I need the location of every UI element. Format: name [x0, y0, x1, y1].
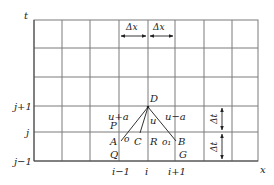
col-label-i-plus-1: i+1 [168, 166, 186, 177]
row-label-j: j [24, 127, 29, 138]
t-axis-label: t [24, 10, 29, 21]
dt-label-1: Δt [209, 114, 219, 125]
point-q-label: Q [110, 149, 118, 160]
point-c-label: C [134, 136, 142, 147]
point-r-label: R [149, 136, 158, 147]
x-axis-label: x [260, 164, 266, 175]
dt-label-2: Δt [209, 142, 219, 153]
col-label-i: i [145, 166, 148, 177]
angle-theta1-label: o₁ [162, 137, 171, 147]
char-label-u: u [150, 115, 156, 126]
point-b-label: B [177, 136, 185, 147]
dx-label-1: Δx [125, 22, 138, 32]
point-d-marker [147, 106, 150, 109]
char-label-u-minus-a: u−a [165, 111, 186, 122]
point-d-label: D [149, 93, 158, 104]
grid [34, 20, 258, 161]
row-label-j-minus-1: j−1 [12, 156, 32, 167]
col-label-i-minus-1: i−1 [112, 166, 130, 177]
angle-theta-label: o [124, 134, 130, 144]
row-label-j-plus-1: j+1 [12, 101, 32, 112]
char-label-u-plus-a: u+a [108, 111, 129, 122]
point-a-label: A [109, 136, 117, 147]
point-g-label: G [179, 149, 187, 160]
characteristic-grid-diagram: t x j+1 j j−1 i−1 i i+1 Δx Δx Δt Δt D A … [0, 0, 274, 185]
dx-label-2: Δx [152, 22, 165, 32]
